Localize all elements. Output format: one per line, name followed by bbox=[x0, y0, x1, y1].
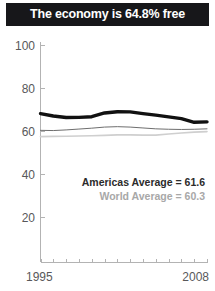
series-line-americas-average bbox=[41, 127, 208, 131]
y-tick-label-60: 60 bbox=[22, 125, 36, 139]
y-tick-marks bbox=[41, 46, 46, 218]
chart-svg: 100 80 60 40 20 Americas Average = 61.6 … bbox=[0, 26, 215, 291]
y-tick-label-40: 40 bbox=[22, 168, 36, 182]
x-tick-marks bbox=[42, 259, 208, 263]
y-tick-labels: 100 80 60 40 20 bbox=[15, 39, 35, 225]
legend-americas-average: Americas Average = 61.6 bbox=[82, 176, 205, 188]
legend-world-average: World Average = 60.3 bbox=[99, 190, 205, 202]
chart-title: The economy is 64.8% free bbox=[30, 8, 185, 21]
chart-plot-area: 100 80 60 40 20 Americas Average = 61.6 … bbox=[0, 26, 215, 291]
x-tick-label-start: 1995 bbox=[26, 270, 53, 284]
y-tick-label-80: 80 bbox=[22, 82, 36, 96]
economy-freedom-chart-widget: The economy is 64.8% free 100 80 60 40 bbox=[0, 0, 215, 291]
y-tick-label-20: 20 bbox=[22, 211, 36, 225]
series-line-country bbox=[41, 112, 208, 123]
chart-title-bar: The economy is 64.8% free bbox=[6, 3, 209, 26]
x-tick-label-end: 2008 bbox=[182, 270, 209, 284]
series-line-world-average bbox=[41, 132, 208, 137]
y-tick-label-100: 100 bbox=[15, 39, 35, 53]
chart-series-group bbox=[41, 112, 208, 137]
